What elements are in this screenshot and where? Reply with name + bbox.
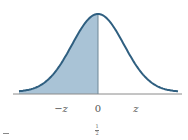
label-zero: 0	[95, 104, 101, 114]
margin-dash-mark	[3, 133, 9, 134]
normal-curve-plot	[0, 0, 188, 140]
fraction-one-half: 1 2	[95, 124, 99, 136]
fraction-numerator: 1	[95, 124, 98, 129]
normal-distribution-figure: −z 0 z 1 2	[0, 0, 188, 140]
label-positive-z: z	[133, 104, 138, 114]
shaded-left-area	[19, 14, 98, 94]
label-negative-z: −z	[54, 104, 68, 114]
fraction-denominator: 2	[95, 131, 98, 136]
